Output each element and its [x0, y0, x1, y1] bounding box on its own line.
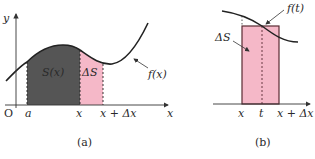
- tick-t-label: t: [259, 107, 264, 120]
- region-delta-s-label: ΔS: [81, 66, 98, 79]
- figure-a: y O a x x + Δx x S(x) ΔS f(x) (a): [2, 12, 174, 149]
- region-s-label: S(x): [42, 66, 64, 79]
- curve-ft-label: f(t): [286, 2, 304, 15]
- figure-b: f(t) ΔS x t x + Δx (b): [213, 2, 314, 149]
- rect-delta-s: [242, 26, 279, 104]
- curve-fx-label: f(x): [147, 68, 167, 81]
- ft-pointer: [266, 10, 284, 24]
- tick-x-dx-label: x + Δx: [100, 107, 137, 120]
- tick-x-label-b: x: [238, 107, 245, 120]
- x-axis-label: x: [167, 107, 174, 120]
- origin-label: O: [4, 107, 13, 120]
- caption-a: (a): [77, 136, 92, 149]
- tick-a-label: a: [25, 107, 32, 120]
- fx-pointer: [134, 59, 148, 68]
- region-delta-s-label-b: ΔS: [214, 31, 231, 44]
- caption-b: (b): [255, 136, 271, 149]
- tick-x-dx-label-b: x + Δx: [277, 107, 314, 120]
- y-axis-label: y: [2, 12, 10, 25]
- tick-x-label: x: [76, 107, 83, 120]
